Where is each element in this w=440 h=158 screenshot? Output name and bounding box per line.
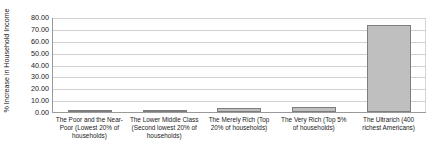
bar-slot <box>202 18 277 112</box>
x-axis-category-label: The Lower Middle Class (Second lowest 20… <box>127 116 202 156</box>
y-axis-tick-labels: 0.0010.0020.0030.0040.0050.0060.0070.008… <box>14 14 52 114</box>
y-axis-tick-label: 50.00 <box>31 50 49 57</box>
bar-slot <box>351 18 426 112</box>
y-axis-tick-label: 20.00 <box>31 86 49 93</box>
bar-slot <box>277 18 352 112</box>
y-axis-tick-label: 40.00 <box>31 62 49 69</box>
x-axis-category-label: The Very Rich (Top 5% of households) <box>276 116 351 156</box>
y-axis-title-text: % Increase in Household Income <box>3 8 12 112</box>
y-axis-tick-label: 30.00 <box>31 74 49 81</box>
bar[interactable] <box>367 25 411 112</box>
y-axis-tick-label: 0.00 <box>35 109 49 116</box>
bar[interactable] <box>143 110 187 112</box>
y-axis-tick-label: 60.00 <box>31 38 49 45</box>
bar-slot <box>53 18 128 112</box>
bar[interactable] <box>292 107 336 112</box>
x-axis-category-label: The Ultrarich (400 richest Americans) <box>351 116 426 156</box>
y-axis-tick-label: 80.00 <box>31 14 49 21</box>
x-axis-category-label: The Poor and the Near-Poor (Lowest 20% o… <box>52 116 127 156</box>
bar-slot <box>128 18 203 112</box>
y-axis-title: % Increase in Household Income <box>0 0 14 120</box>
x-axis-category-labels: The Poor and the Near-Poor (Lowest 20% o… <box>52 116 426 156</box>
plot-area <box>52 18 426 113</box>
y-axis-tick-label: 10.00 <box>31 98 49 105</box>
bar[interactable] <box>217 108 261 112</box>
bars-container <box>53 18 426 112</box>
y-axis-tick-label: 70.00 <box>31 26 49 33</box>
bar-chart: % Increase in Household Income 0.0010.00… <box>0 0 440 158</box>
bar[interactable] <box>68 110 112 112</box>
x-axis-category-label: The Merely Rich (Top 20% of households) <box>202 116 277 156</box>
